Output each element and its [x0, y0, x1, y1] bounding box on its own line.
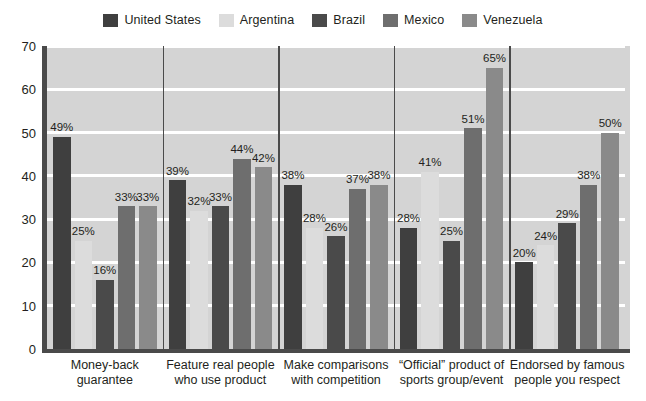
bar-br: 26% [327, 46, 345, 349]
bar-ar: 32% [190, 46, 208, 349]
bar-us: 49% [53, 46, 71, 349]
y-axis-tick-label: 40 [2, 168, 36, 183]
bar-mx: 51% [464, 46, 482, 349]
bar-rect [118, 206, 136, 349]
x-axis-category-line: Make comparisons [278, 358, 394, 373]
y-axis-tick-label: 10 [2, 298, 36, 313]
bar-br: 29% [558, 46, 576, 349]
bar-rect [53, 137, 71, 349]
legend-swatch-icon-br [312, 14, 327, 27]
bar-rect [139, 206, 157, 349]
x-axis-category-line: Endorsed by famous [509, 358, 625, 373]
bar-value-label: 28% [303, 213, 326, 225]
bar-value-label: 51% [462, 114, 485, 126]
x-axis-category-label: “Official” product ofsports group/event [394, 358, 510, 388]
bar-value-label: 65% [483, 53, 506, 65]
chart-legend: United StatesArgentinaBrazilMexicoVenezu… [0, 8, 646, 32]
legend-label: Argentina [240, 13, 294, 27]
bar-ve: 65% [486, 46, 504, 349]
bar-br: 16% [96, 46, 114, 349]
bar-ar: 28% [306, 46, 324, 349]
x-axis-category-line: guarantee [47, 373, 163, 388]
bar-ar: 41% [421, 46, 439, 349]
legend-swatch-icon-ar [219, 14, 234, 27]
bar-rect [284, 185, 302, 349]
bar-rect [306, 228, 324, 349]
bar-rect [233, 159, 251, 349]
bar-mx: 44% [233, 46, 251, 349]
x-axis-category-line: people you respect [509, 373, 625, 388]
bar-value-label: 44% [230, 144, 253, 156]
legend-label: Venezuela [483, 13, 542, 27]
bar-value-label: 33% [136, 192, 159, 204]
bar-rect [327, 236, 345, 349]
legend-swatch-icon-ve [462, 14, 477, 27]
x-axis-category-label: Endorsed by famouspeople you respect [509, 358, 625, 388]
bar-value-label: 38% [577, 170, 600, 182]
bar-group: 20%24%29%38%50% [509, 46, 625, 349]
bar-rect [443, 241, 461, 349]
bar-group: 39%32%33%44%42% [163, 46, 279, 349]
bar-rect [212, 206, 230, 349]
bar-br: 25% [443, 46, 461, 349]
bar-us: 39% [169, 46, 187, 349]
legend-item-br: Brazil [312, 13, 365, 27]
legend-item-mx: Mexico [383, 13, 444, 27]
bar-value-label: 38% [367, 170, 390, 182]
bar-rect [75, 241, 93, 349]
bar-rect [558, 223, 576, 349]
bar-rect [580, 185, 598, 349]
bar-us: 20% [515, 46, 533, 349]
bar-mx: 33% [118, 46, 136, 349]
bar-rect [421, 172, 439, 349]
bar-value-label: 50% [599, 118, 622, 130]
legend-label: Mexico [404, 13, 444, 27]
bar-value-label: 25% [72, 226, 95, 238]
x-axis-category-line: “Official” product of [394, 358, 510, 373]
y-axis-tick-label: 70 [2, 39, 36, 54]
y-axis: 010203040506070 [0, 46, 36, 349]
y-axis-tick-label: 20 [2, 255, 36, 270]
bar-rect [486, 68, 504, 349]
y-axis-tick-label: 30 [2, 212, 36, 227]
bar-value-label: 24% [534, 231, 557, 243]
legend-swatch-icon-us [103, 14, 118, 27]
bar-value-label: 39% [166, 166, 189, 178]
x-axis-category-line: Money-back [47, 358, 163, 373]
plot-area: 49%25%16%33%33%39%32%33%44%42%38%28%26%3… [47, 46, 625, 349]
bar-rect [190, 211, 208, 350]
x-axis-category-line: sports group/event [394, 373, 510, 388]
bar-value-label: 49% [50, 122, 73, 134]
bar-rect [400, 228, 418, 349]
bar-value-label: 42% [252, 153, 275, 165]
bar-rect [370, 185, 388, 349]
bar-value-label: 25% [440, 226, 463, 238]
bar-rect [96, 280, 114, 349]
bar-value-label: 26% [324, 222, 347, 234]
bar-rect [537, 245, 555, 349]
bar-value-label: 20% [513, 248, 536, 260]
bar-mx: 37% [349, 46, 367, 349]
bar-value-label: 29% [556, 209, 579, 221]
y-axis-tick-label: 60 [2, 82, 36, 97]
legend-item-us: United States [103, 13, 200, 27]
bar-ar: 25% [75, 46, 93, 349]
bar-ve: 42% [255, 46, 273, 349]
legend-label: United States [124, 13, 200, 27]
bar-mx: 38% [580, 46, 598, 349]
x-axis-categories: Money-backguaranteeFeature real peoplewh… [47, 358, 625, 398]
bar-value-label: 32% [187, 196, 210, 208]
bar-us: 38% [284, 46, 302, 349]
bar-br: 33% [212, 46, 230, 349]
bar-value-label: 28% [397, 213, 420, 225]
bar-rect [349, 189, 367, 349]
x-axis-category-line: Feature real people [163, 358, 279, 373]
bar-chart: United StatesArgentinaBrazilMexicoVenezu… [0, 0, 646, 401]
legend-label: Brazil [333, 13, 365, 27]
legend-swatch-icon-mx [383, 14, 398, 27]
bar-value-label: 33% [209, 192, 232, 204]
bar-value-label: 16% [93, 265, 116, 277]
x-axis-category-label: Money-backguarantee [47, 358, 163, 388]
y-axis-tick-label: 0 [2, 342, 36, 357]
bar-group: 28%41%25%51%65% [394, 46, 510, 349]
